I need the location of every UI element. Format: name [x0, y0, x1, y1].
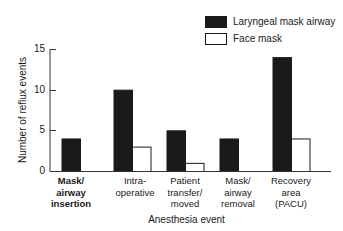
x-category-label-3: Mask/ airway removal — [208, 175, 268, 210]
bar-lma-1 — [114, 90, 133, 171]
bar-lma-2 — [167, 131, 186, 172]
bar-lma-4 — [273, 58, 292, 172]
bar-face-mask-2 — [186, 163, 205, 171]
bars-group — [62, 58, 310, 172]
bar-face-mask-4 — [292, 139, 311, 172]
x-axis-label: Anesthesia event — [0, 214, 343, 225]
bar-lma-3 — [220, 139, 239, 172]
bar-chart: Laryngeal mask airway Face mask Number o… — [0, 0, 343, 231]
x-category-label-2: Patient transfer/ moved — [155, 175, 215, 210]
bar-face-mask-1 — [133, 147, 152, 171]
x-category-label-0: Mask/ airway insertion — [41, 175, 101, 210]
x-category-label-4: Recovery area (PACU) — [261, 175, 321, 210]
bar-lma-0 — [62, 139, 81, 172]
